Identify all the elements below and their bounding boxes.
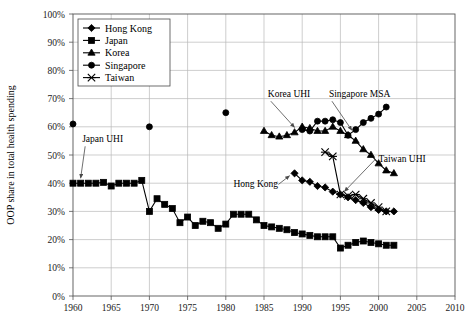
annotation-korea-uhi: Korea UHI — [268, 89, 310, 127]
y-axis-tick-label: 60% — [48, 122, 66, 132]
data-point-square — [230, 211, 236, 217]
data-point-square — [208, 220, 214, 226]
data-point-square — [177, 220, 183, 226]
data-point-square — [123, 180, 129, 186]
data-point-triangle — [260, 127, 267, 133]
y-axis-tick-label: 0% — [52, 292, 65, 302]
data-point-square — [314, 234, 320, 240]
data-point-circle — [307, 128, 313, 134]
data-point-square — [192, 223, 198, 229]
annotation-arrow — [81, 146, 86, 178]
data-point-circle — [337, 120, 343, 126]
data-point-circle — [345, 132, 351, 138]
y-axis-tick-label: 20% — [48, 235, 66, 245]
data-point-circle — [330, 117, 336, 123]
x-axis-tick-label: 2010 — [446, 303, 465, 313]
legend-label: Japan — [105, 35, 128, 46]
data-point-triangle — [329, 123, 336, 129]
data-point-square — [276, 225, 282, 231]
data-point-square — [345, 242, 351, 248]
data-point-square — [185, 214, 191, 220]
data-point-circle — [70, 121, 76, 127]
data-point-circle — [376, 111, 382, 117]
oop-share-line-chart: 1960196519701975198019851990199520002005… — [0, 0, 469, 331]
series-korea — [260, 123, 397, 176]
data-point-square — [116, 180, 122, 186]
data-point-square — [337, 245, 343, 251]
data-point-triangle — [322, 127, 329, 133]
x-axis-tick-label: 2005 — [407, 303, 426, 313]
data-point-square — [284, 227, 290, 233]
data-point-triangle — [268, 131, 275, 137]
data-point-square — [162, 201, 168, 207]
data-point-square — [391, 242, 397, 248]
data-point-diamond — [322, 184, 329, 191]
x-axis-tick-label: 1965 — [102, 303, 121, 313]
y-axis-tick-label: 30% — [48, 207, 66, 217]
data-point-square — [154, 196, 160, 202]
data-point-square — [246, 211, 252, 217]
y-axis-tick-label: 10% — [48, 263, 66, 273]
legend-label: Hong Kong — [105, 23, 152, 34]
chart-container: 1960196519701975198019851990199520002005… — [0, 0, 469, 331]
legend-label: Singapore — [105, 60, 146, 71]
data-point-circle — [299, 127, 305, 133]
x-axis-tick-label: 1990 — [293, 303, 312, 313]
data-point-circle — [383, 104, 389, 110]
data-point-square — [139, 177, 145, 183]
data-point-triangle — [352, 137, 359, 143]
y-axis-title-text: OOP share in total health spending — [5, 85, 16, 224]
data-point-square — [307, 232, 313, 238]
data-point-square — [215, 225, 221, 231]
x-axis-tick-label: 1995 — [331, 303, 350, 313]
data-point-square — [169, 206, 175, 212]
data-point-triangle — [367, 151, 374, 157]
annotation-label: Hong Kong — [233, 179, 278, 189]
data-point-square — [368, 239, 374, 245]
y-axis-tick-label: 100% — [43, 10, 65, 20]
data-point-square — [253, 217, 259, 223]
data-point-square — [261, 223, 267, 229]
data-point-diamond — [329, 188, 336, 195]
x-axis-tick-label: 1975 — [178, 303, 197, 313]
y-axis-tick-label: 80% — [48, 66, 66, 76]
data-point-square — [353, 239, 359, 245]
y-axis-tick-label: 40% — [48, 179, 66, 189]
data-point-square — [223, 221, 229, 227]
data-point-circle — [360, 120, 366, 126]
x-axis-tick-label: 1970 — [140, 303, 159, 313]
annotation-leader-line — [344, 159, 375, 191]
x-axis-tick-label: 1960 — [64, 303, 83, 313]
data-point-square — [299, 231, 305, 237]
data-point-square — [146, 208, 152, 214]
data-point-circle — [223, 110, 229, 116]
annotation-layer: Japan UHIKorea UHISingapore MSATaiwan UH… — [81, 89, 426, 191]
data-point-square — [383, 242, 389, 248]
data-point-square — [108, 183, 114, 189]
data-point-square — [89, 37, 95, 43]
data-point-circle — [353, 127, 359, 133]
x-axis-tick-label: 1980 — [216, 303, 235, 313]
x-axis-tick-label: 2000 — [369, 303, 388, 313]
data-point-square — [101, 179, 107, 185]
data-point-circle — [368, 115, 374, 121]
annotation-label: Taiwan UHI — [379, 154, 426, 164]
data-point-square — [360, 238, 366, 244]
annotation-hong-kong: Hong Kong — [233, 176, 289, 190]
annotation-label: Japan UHI — [82, 134, 123, 144]
data-point-diamond — [306, 178, 313, 185]
data-point-square — [322, 234, 328, 240]
data-point-circle — [314, 118, 320, 124]
y-axis-tick-label: 50% — [48, 151, 66, 161]
data-point-circle — [146, 124, 152, 130]
data-point-diamond — [390, 208, 397, 215]
annotation-label: Korea UHI — [268, 89, 310, 99]
legend[interactable]: Hong KongJapanKoreaSingaporeTaiwan — [78, 19, 170, 86]
data-point-square — [78, 180, 84, 186]
data-point-square — [131, 180, 137, 186]
annotation-label: Singapore MSA — [329, 89, 391, 99]
data-point-circle — [89, 62, 95, 68]
series-layer — [70, 104, 397, 251]
data-point-triangle — [291, 129, 298, 135]
data-point-triangle — [337, 127, 344, 133]
